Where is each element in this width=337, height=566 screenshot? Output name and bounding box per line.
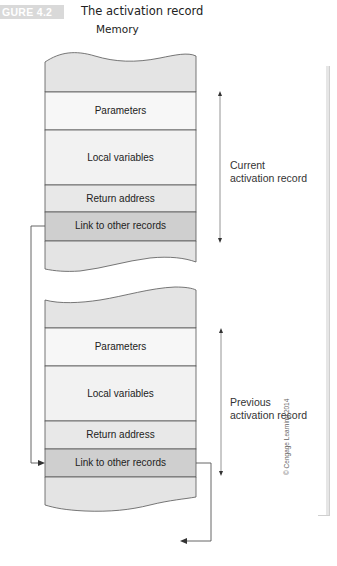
label-local-variables-prev: Local variables (45, 388, 196, 399)
label-link-to-other-records: Link to other records (45, 220, 196, 231)
previous-record-label-line2: activation record (230, 409, 307, 422)
copyright-notice: © Cengage Learning 2014 (283, 385, 290, 475)
label-return-address-prev: Return address (45, 429, 196, 440)
page-edge-divider (326, 66, 330, 516)
link-connector-current-to-previous (31, 226, 45, 466)
current-record-label-line1: Current (230, 159, 307, 172)
current-record-span-arrow (218, 91, 222, 243)
previous-memory-block (45, 287, 196, 511)
activation-record-diagram (0, 0, 337, 566)
previous-record-label: Previous activation record (230, 396, 307, 422)
previous-record-span-arrow (219, 328, 223, 476)
label-link-to-other-records-prev: Link to other records (45, 457, 196, 468)
current-record-label-line2: activation record (230, 172, 307, 185)
page-edge-corner (318, 515, 330, 516)
previous-record-label-line1: Previous (230, 396, 307, 409)
label-parameters: Parameters (45, 105, 196, 116)
label-return-address: Return address (45, 193, 196, 204)
label-parameters-prev: Parameters (45, 341, 196, 352)
current-record-label: Current activation record (230, 159, 307, 185)
label-local-variables: Local variables (45, 152, 196, 163)
